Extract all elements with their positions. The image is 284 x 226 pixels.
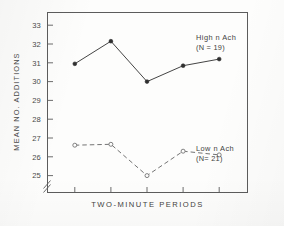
data-point-low-4 xyxy=(181,149,185,153)
series-annotation-high-n: (N = 19) xyxy=(196,43,236,53)
data-point-low-2 xyxy=(109,142,113,146)
data-point-low-1 xyxy=(73,143,77,147)
data-point-high-4 xyxy=(181,64,185,68)
series-annotation-low-n-ach: Low n Ach (N= 21) xyxy=(196,144,234,163)
chart-page: 33 32 31 30 29 28 27 26 25 MEAN NO. ADDI… xyxy=(0,0,284,226)
y-tick-label-25: 25 xyxy=(27,171,41,180)
series-annotation-low-n: (N= 21) xyxy=(196,154,234,164)
data-point-high-5 xyxy=(217,57,221,61)
y-axis-title: MEAN NO. ADDITIONS xyxy=(12,40,21,164)
y-tick-label-31: 31 xyxy=(27,59,41,68)
data-point-high-2 xyxy=(109,39,113,43)
y-axis-ticks xyxy=(47,25,53,175)
data-point-low-3 xyxy=(145,174,149,178)
y-axis-break-icon xyxy=(44,181,51,193)
y-tick-label-28: 28 xyxy=(27,115,41,124)
y-tick-label-27: 27 xyxy=(27,134,41,143)
y-tick-label-33: 33 xyxy=(27,21,41,30)
x-axis-ticks xyxy=(75,187,219,193)
y-tick-label-32: 32 xyxy=(27,40,41,49)
data-point-high-3 xyxy=(145,80,149,84)
chart-canvas xyxy=(0,0,284,226)
y-tick-label-30: 30 xyxy=(27,77,41,86)
series-annotation-high-n-ach: High n Ach (N = 19) xyxy=(196,33,236,52)
y-tick-label-26: 26 xyxy=(27,153,41,162)
data-point-high-1 xyxy=(73,62,77,66)
series-annotation-high-name: High n Ach xyxy=(196,33,236,43)
series-annotation-low-name: Low n Ach xyxy=(196,144,234,154)
y-tick-label-29: 29 xyxy=(27,96,41,105)
x-axis-title: TWO-MINUTE PERIODS xyxy=(47,200,248,209)
